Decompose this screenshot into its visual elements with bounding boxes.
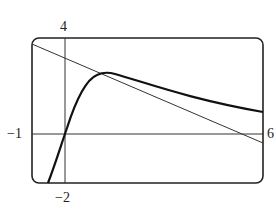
curve	[48, 73, 263, 183]
graph-canvas	[0, 0, 276, 213]
viewing-window-frame	[32, 38, 263, 183]
tick-label-top: 4	[60, 20, 67, 34]
tick-label-bottom: −2	[55, 191, 70, 205]
tick-label-right: 6	[267, 127, 274, 141]
tick-label-left: −1	[7, 127, 22, 141]
